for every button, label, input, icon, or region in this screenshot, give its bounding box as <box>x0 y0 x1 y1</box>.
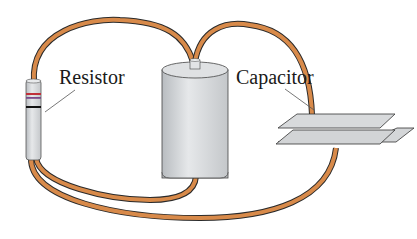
circuit-diagram <box>0 0 417 239</box>
resistor-leader-line <box>45 90 75 112</box>
band-red <box>26 93 41 95</box>
capacitor-label: Capacitor <box>236 66 314 89</box>
band-black <box>26 106 41 108</box>
battery <box>162 59 228 179</box>
resistor <box>26 79 41 160</box>
resistor-label: Resistor <box>59 66 125 89</box>
band-violet <box>26 97 41 99</box>
capacitor <box>276 114 414 144</box>
